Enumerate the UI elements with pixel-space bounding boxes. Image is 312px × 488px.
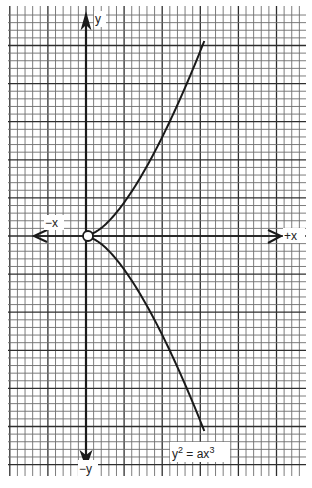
semicubical-parabola-figure: +x −x y −y y2 = ax3 [0,0,312,488]
equation-x-exponent: 3 [209,445,214,455]
x-negative-label: −x [45,216,58,230]
x-positive-label: +x [284,229,297,243]
equation-middle: = ax [183,447,209,461]
y-negative-label: −y [79,462,92,476]
origin-cusp-marker [83,231,93,241]
y-positive-label: y [95,12,101,26]
